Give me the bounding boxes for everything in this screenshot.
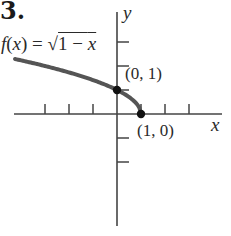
x-axis-label: x [211, 114, 219, 136]
function-graph-figure: 3. f(x) = √1 − x y x (0, 1) (1, 0) [0, 0, 231, 236]
axes [14, 12, 222, 226]
plot-area [0, 0, 231, 236]
function-curve [15, 59, 141, 114]
point-marker [113, 86, 121, 94]
point-marker [137, 110, 145, 118]
y-axis-ticks [117, 42, 129, 162]
point-label-1-0: (1, 0) [137, 121, 174, 141]
y-axis-label: y [123, 2, 131, 24]
point-label-0-1: (0, 1) [125, 64, 162, 84]
